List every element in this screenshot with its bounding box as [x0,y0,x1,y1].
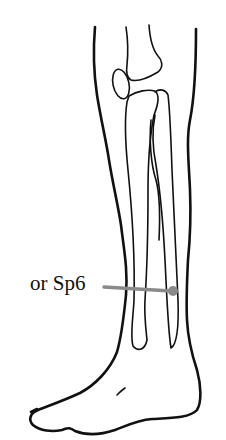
leg-diagram: or Sp6 [0,0,226,440]
annotation-pointer-line [104,287,171,291]
acupoint-label: or Sp6 [30,273,85,294]
acupoint-marker [168,286,178,296]
